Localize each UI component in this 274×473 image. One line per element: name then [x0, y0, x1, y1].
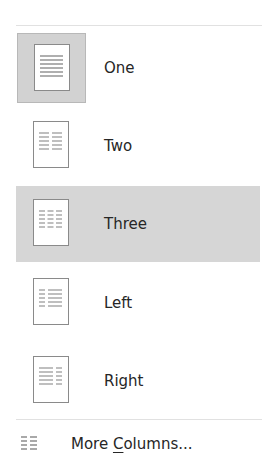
menu-item-right[interactable]: Right [16, 343, 260, 419]
label-text: olumns... [123, 435, 192, 453]
bottom-separator [16, 419, 262, 420]
icon-container [17, 268, 86, 338]
menu-item-label: Three [104, 186, 147, 262]
menu-item-label: Right [104, 343, 144, 419]
top-separator [16, 25, 262, 26]
more-columns-label: More Columns... [71, 425, 193, 463]
columns-icon [20, 435, 38, 451]
icon-container [17, 189, 86, 259]
more-columns-button[interactable]: More Columns... [16, 425, 260, 463]
right-column-icon [33, 356, 69, 403]
selected-indicator [17, 33, 86, 103]
three-columns-icon [33, 199, 69, 246]
menu-item-left[interactable]: Left [16, 265, 260, 341]
menu-item-label: Left [104, 265, 132, 341]
menu-item-one[interactable]: One [16, 30, 260, 106]
menu-item-label: Two [104, 108, 132, 184]
menu-item-three[interactable]: Three [16, 186, 260, 262]
icon-container [17, 346, 86, 416]
one-column-icon [34, 44, 70, 91]
access-key: C [113, 435, 123, 453]
two-columns-icon [33, 121, 69, 168]
left-column-icon [33, 278, 69, 325]
menu-item-two[interactable]: Two [16, 108, 260, 184]
menu-item-label: One [104, 30, 135, 106]
icon-container [17, 111, 86, 181]
label-text: More [71, 435, 113, 453]
